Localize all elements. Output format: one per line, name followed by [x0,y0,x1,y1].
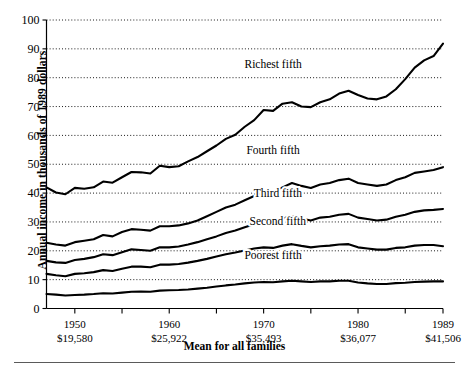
series-label: Poorest fifth [244,249,301,261]
y-tick-label: 40 [28,186,40,200]
y-tick-label: 30 [28,215,40,229]
y-tick-label: 10 [28,273,40,287]
series-line [47,167,444,245]
footer-rule [14,362,455,363]
chart-svg: 0102030405060708090100 Richest fifthRich… [0,0,469,370]
y-tick-label: 80 [28,71,40,85]
x-tick-label: 1960 [158,318,181,330]
y-tick-label: 100 [22,13,40,27]
series-labels-group: Richest fifthRichest fifthFourth fifthFo… [244,58,306,262]
y-tick-label: 20 [28,244,40,258]
series-label: Fourth fifth [246,144,300,156]
x-tick-label: 1970 [253,318,276,330]
x-tick-label: 1980 [347,318,370,330]
series-label: Second fifth [250,215,307,227]
y-tick-label: 0 [34,302,40,316]
plot-area: 0102030405060708090100 Richest fifthRich… [0,0,469,370]
x-axis-ticks-group [75,309,443,314]
x-tick-label: 1950 [64,318,87,330]
income-quintiles-figure: Annual income in thousands of 1989 dolla… [0,0,469,370]
x-tick-label: 1989 [432,318,455,330]
y-axis-ticks-group: 0102030405060708090100 [22,13,47,316]
x-axis-title: Mean for all families [0,340,469,352]
y-tick-label: 70 [28,100,40,114]
y-tick-label: 90 [28,42,40,56]
y-tick-label: 60 [28,129,40,143]
series-label: Richest fifth [244,58,301,70]
series-line [47,281,444,296]
series-label: Third fifth [254,187,302,199]
y-tick-label: 50 [28,157,40,171]
